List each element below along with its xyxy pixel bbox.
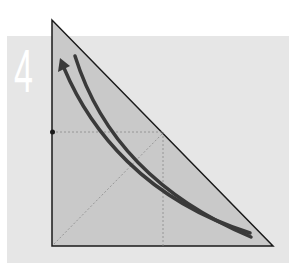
triangle-diagram <box>0 0 302 263</box>
marker-dot <box>50 130 55 135</box>
